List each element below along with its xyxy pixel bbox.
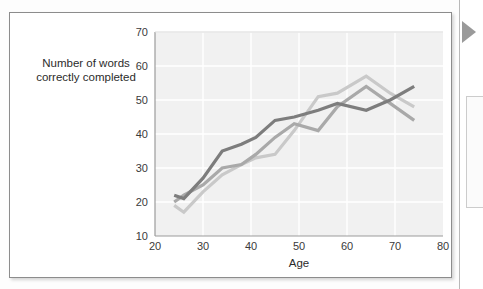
y-axis-tick-label: 30: [136, 162, 148, 174]
y-axis-tick-label: 60: [136, 60, 148, 72]
x-axis-tick-label: 30: [197, 240, 209, 252]
y-axis-tick-label: 20: [136, 196, 148, 208]
x-axis-tick-label: 40: [245, 240, 257, 252]
x-axis-title: Age: [289, 257, 309, 269]
y-axis-tick-label: 50: [136, 94, 148, 106]
x-axis-tick-label: 20: [149, 240, 161, 252]
y-axis-tick-label: 70: [136, 26, 148, 38]
y-axis-tick-label: 40: [136, 128, 148, 140]
page-edge-tab: [466, 96, 483, 208]
x-axis-tick-label: 80: [437, 240, 449, 252]
x-axis-tick-label: 70: [389, 240, 401, 252]
right-triangle-marker-icon[interactable]: [462, 21, 476, 43]
x-axis-tick-label: 60: [341, 240, 353, 252]
y-axis-tick-label: 10: [136, 230, 148, 242]
x-axis-tick-label: 50: [293, 240, 305, 252]
